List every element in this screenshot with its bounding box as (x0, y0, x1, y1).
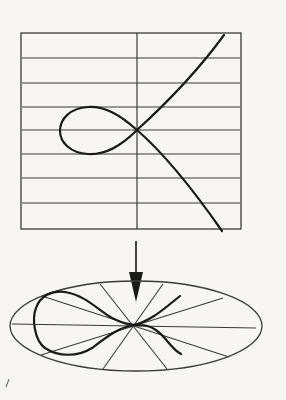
stray-mark (6, 379, 9, 387)
mapping-arrow (129, 241, 143, 302)
chart-frame (21, 33, 241, 229)
diagram-canvas (0, 0, 286, 400)
horizontal-grid-lines (22, 58, 240, 203)
nodal-cubic-curve (60, 35, 224, 231)
radial-lines (12, 284, 256, 369)
arrowhead-icon (129, 272, 143, 302)
figure (0, 0, 286, 400)
top-panel (21, 33, 241, 231)
